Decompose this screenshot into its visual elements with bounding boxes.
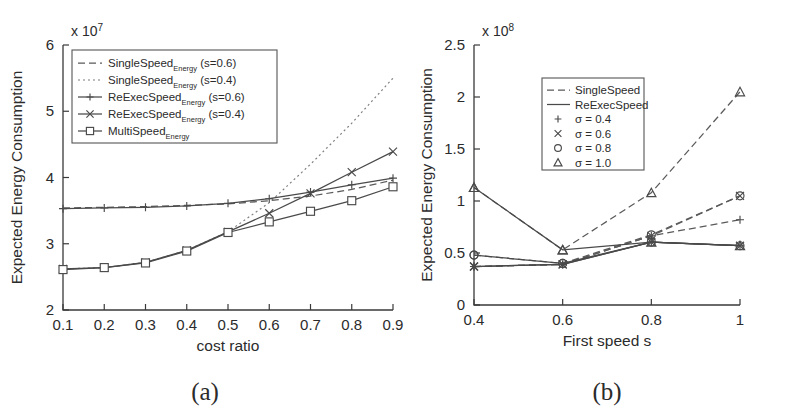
panel-b-caption: (b) xyxy=(402,378,812,406)
x-axis-title: cost ratio xyxy=(197,337,260,354)
x-tick-label: 0.7 xyxy=(300,316,321,333)
series-line xyxy=(474,242,740,263)
marker-plus xyxy=(59,205,67,213)
series-3 xyxy=(59,148,397,273)
legend-label: σ = 0.8 xyxy=(575,142,611,154)
chart-a-canvas: 234560.10.20.30.40.50.60.70.80.9x 107cos… xyxy=(0,0,410,370)
marker-cross xyxy=(265,209,273,217)
marker-cross xyxy=(348,168,356,176)
chart-panel-b: 00.511.522.50.40.60.81x 108First speed s… xyxy=(402,0,812,412)
y-tick-label: 6 xyxy=(46,36,54,53)
marker-plus xyxy=(736,216,744,224)
marker-square xyxy=(224,228,232,236)
y-axis-title: Expected Energy Consumption xyxy=(8,71,25,285)
marker-square xyxy=(142,259,150,267)
x-tick-label: 0.5 xyxy=(218,316,239,333)
y-tick-label: 1.5 xyxy=(444,140,465,157)
series-2 xyxy=(470,192,744,268)
marker-square xyxy=(86,127,93,134)
series-line xyxy=(474,187,740,249)
marker-plus xyxy=(100,204,108,212)
x-tick-label: 0.8 xyxy=(341,316,362,333)
x-tick-label: 0.9 xyxy=(383,316,404,333)
series-line xyxy=(63,152,393,269)
marker-square xyxy=(307,207,315,215)
chart-a-legend: SingleSpeedEnergy (s=0.6)SingleSpeedEner… xyxy=(72,50,277,143)
x-tick-label: 0.2 xyxy=(94,316,115,333)
legend-label: σ = 1.0 xyxy=(575,157,611,169)
marker-square xyxy=(265,218,273,226)
series-line xyxy=(474,220,740,267)
x-tick-label: 0.6 xyxy=(259,316,280,333)
legend-label: σ = 0.6 xyxy=(575,128,611,140)
x-axis-title: First speed s xyxy=(563,332,652,349)
marker-square xyxy=(348,197,356,205)
y-tick-label: 1 xyxy=(457,192,465,209)
y-tick-label: 4 xyxy=(46,169,54,186)
legend-label: SingleSpeed xyxy=(575,84,640,96)
y-axis-exponent: x 107 xyxy=(71,22,103,39)
x-tick-label: 0.3 xyxy=(135,316,156,333)
x-tick-label: 0.8 xyxy=(641,311,662,328)
x-tick-label: 0.1 xyxy=(53,316,74,333)
marker-plus xyxy=(389,174,397,182)
x-tick-label: 0.4 xyxy=(176,316,197,333)
figure-container: 234560.10.20.30.40.50.60.70.80.9x 107cos… xyxy=(0,0,812,412)
series-7 xyxy=(469,183,744,254)
y-axis-title: Expected Energy Consumption xyxy=(418,68,435,282)
legend-label: ReExecSpeed xyxy=(575,99,649,111)
legend-label: σ = 0.4 xyxy=(575,113,612,125)
series-line xyxy=(474,196,740,267)
y-tick-label: 0.5 xyxy=(444,244,465,261)
y-tick-label: 5 xyxy=(46,102,54,119)
marker-cross xyxy=(389,148,397,156)
series-6 xyxy=(470,238,744,267)
y-tick-label: 2.5 xyxy=(444,36,465,53)
y-axis-exponent: x 108 xyxy=(482,22,514,39)
marker-square xyxy=(59,266,67,274)
series-0 xyxy=(470,216,744,271)
series-5 xyxy=(470,238,744,270)
x-tick-label: 1 xyxy=(736,311,744,328)
marker-plus xyxy=(224,199,232,207)
marker-square xyxy=(100,264,108,272)
series-4 xyxy=(59,183,397,274)
marker-square xyxy=(389,183,397,191)
panel-a-caption: (a) xyxy=(0,378,410,406)
marker-plus xyxy=(183,202,191,210)
x-tick-label: 0.6 xyxy=(552,311,573,328)
marker-plus xyxy=(142,203,150,211)
y-tick-label: 3 xyxy=(46,235,54,252)
chart-b-legend: SingleSpeedReExecSpeedσ = 0.4σ = 0.6σ = … xyxy=(542,78,649,170)
marker-square xyxy=(183,247,191,255)
chart-b-canvas: 00.511.522.50.40.60.81x 108First speed s… xyxy=(402,0,812,370)
y-tick-label: 2 xyxy=(457,88,465,105)
x-tick-label: 0.4 xyxy=(464,311,485,328)
marker-plus xyxy=(348,181,356,189)
chart-panel-a: 234560.10.20.30.40.50.60.70.80.9x 107cos… xyxy=(0,0,410,412)
